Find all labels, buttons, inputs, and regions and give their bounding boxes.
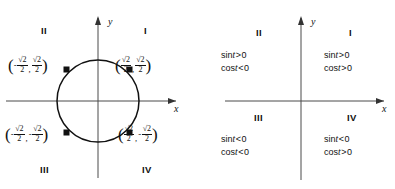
quadrant-label-I: I [144,26,147,36]
close-paren: ) [146,59,152,73]
quadrant-label-II: II [41,26,47,36]
point-marker-quadrant-3 [64,130,70,136]
y-denominator: 2 [144,135,150,144]
sin-sign-line: sint>0 [324,49,352,62]
coordinate-label-quadrant-3: ( - √2 2 , - √2 2 ) [5,125,48,144]
sin-function: sin [324,50,336,60]
x-denominator: 2 [123,66,129,75]
x-axis-label: x [174,104,178,114]
quadrant-label-IV: IV [347,113,357,123]
sin-function: sin [221,50,233,60]
sin-sign-line: sint<0 [324,133,352,146]
x-axis [6,98,176,104]
cos-sign-line: cost<0 [221,62,249,75]
x-fraction: √2 2 [121,56,131,75]
sin-function: sin [221,134,233,144]
sin-sign-line: sint<0 [221,133,249,146]
y-fraction: √2 2 [32,56,42,75]
y-axis [95,16,101,178]
close-paren: ) [42,59,48,73]
cos-value: 0 [244,147,249,157]
coordinate-label-quadrant-1: ( √2 2 , √2 2 ) [115,56,151,75]
trigonometry-figure: y x II I III IV ( - √2 2 , √2 2 ) ( √2 [0,0,395,189]
cos-sign-line: cost<0 [221,146,249,159]
x-denominator: 2 [19,66,25,75]
x-axis-label: x [382,104,386,114]
cos-sign-line: cost>0 [324,146,352,159]
cos-value: 0 [347,63,352,73]
close-paren: ) [43,128,49,142]
sin-value: 0 [241,134,246,144]
close-paren: ) [152,128,158,142]
quadrant-label-I: I [349,28,352,38]
trig-sign-chart: y x II I III IV sint>0 cost<0 sint>0 cos… [198,0,395,189]
sin-value: 0 [241,50,246,60]
x-fraction: √2 2 [14,125,24,144]
coordinate-label-quadrant-4: ( √2 2 , - √2 2 ) [118,125,158,144]
x-fraction: √2 2 [17,56,27,75]
x-fraction: √2 2 [124,125,134,144]
cos-function: cos [324,147,338,157]
y-fraction: √2 2 [32,125,42,144]
y-fraction: √2 2 [135,56,145,75]
sin-value: 0 [344,134,349,144]
y-axis-label: y [108,17,112,27]
x-axis [225,98,384,104]
sign-block-quadrant-4: sint<0 cost>0 [324,133,352,159]
quadrant-label-III: III [254,113,263,123]
unit-circle-diagram: y x II I III IV ( - √2 2 , √2 2 ) ( √2 [0,0,198,189]
cos-function: cos [221,63,235,73]
quadrant-label-IV: IV [142,165,152,175]
quadrant-label-III: III [40,165,49,175]
sign-block-quadrant-2: sint>0 cost<0 [221,49,249,75]
cos-function: cos [324,63,338,73]
sin-sign-line: sint>0 [221,49,249,62]
sin-value: 0 [344,50,349,60]
y-denominator: 2 [34,135,40,144]
x-denominator: 2 [16,135,22,144]
quadrant-label-II: II [256,28,262,38]
sign-chart-graphics [198,0,395,189]
cos-sign-line: cost>0 [324,62,352,75]
cos-function: cos [221,147,235,157]
sign-block-quadrant-1: sint>0 cost>0 [324,49,352,75]
y-fraction: √2 2 [142,125,152,144]
coordinate-label-quadrant-2: ( - √2 2 , √2 2 ) [8,56,48,75]
y-axis-label: y [311,17,315,27]
cos-value: 0 [347,147,352,157]
point-marker-quadrant-2 [64,67,70,73]
cos-value: 0 [244,63,249,73]
unit-circle-graphics [0,0,198,189]
sign-block-quadrant-3: sint<0 cost<0 [221,133,249,159]
y-denominator: 2 [137,66,143,75]
sin-function: sin [324,134,336,144]
x-denominator: 2 [126,135,132,144]
y-axis [298,16,304,180]
y-denominator: 2 [34,66,40,75]
